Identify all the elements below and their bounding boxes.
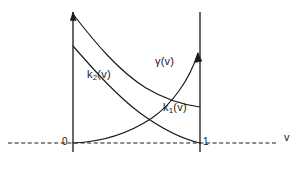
plot-canvas bbox=[0, 0, 304, 172]
function-plot-figure: k2(v) k1(v) γ(v) 0 1 v bbox=[0, 0, 304, 172]
curve-label-k2-subscript: 2 bbox=[93, 73, 98, 82]
axis-label-v: v bbox=[284, 131, 290, 143]
curve-label-k2-argument: (v) bbox=[97, 68, 110, 80]
curve-k2 bbox=[73, 46, 200, 143]
curve-label-k1-argument: (v) bbox=[173, 101, 186, 113]
tick-label-zero: 0 bbox=[62, 136, 68, 147]
gamma-arrowhead-icon bbox=[195, 53, 202, 62]
curve-label-k1-base: k bbox=[163, 101, 169, 113]
curve-label-k1-subscript: 1 bbox=[169, 106, 174, 115]
tick-label-one: 1 bbox=[203, 136, 209, 147]
curve-label-k1: k1(v) bbox=[163, 101, 187, 113]
curve-label-k2-base: k bbox=[87, 68, 93, 80]
curve-k1 bbox=[73, 14, 200, 107]
curve-label-gamma: γ(v) bbox=[155, 55, 174, 67]
curve-label-k2: k2(v) bbox=[87, 68, 111, 80]
